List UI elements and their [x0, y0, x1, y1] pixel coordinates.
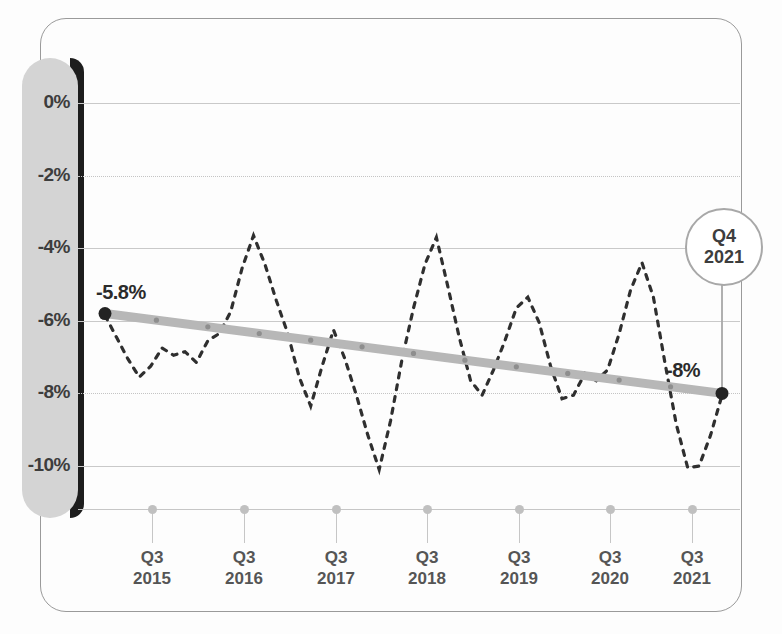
- trend-tick-marker: [411, 351, 416, 356]
- callout-badge[interactable]: Q4 2021: [685, 208, 763, 286]
- end-point-marker[interactable]: [716, 387, 729, 400]
- series-layer: [0, 0, 782, 634]
- trend-tick-marker: [205, 324, 210, 329]
- trend-tick-marker: [359, 344, 364, 349]
- trend-tick-marker: [668, 384, 673, 389]
- trend-tick-marker: [462, 358, 467, 363]
- trend-tick-marker: [154, 318, 159, 323]
- trend-tick-marker: [257, 331, 262, 336]
- trend-tick-marker: [514, 364, 519, 369]
- callout-line-1: Q4: [712, 226, 736, 247]
- start-point-marker[interactable]: [99, 307, 112, 320]
- callout-line-2: 2021: [704, 247, 744, 268]
- trend-tick-marker: [617, 377, 622, 382]
- trend-tick-marker: [308, 338, 313, 343]
- plot-area: 0%-2%-4%-6%-8%-10% Q32015Q32016Q32017Q32…: [0, 0, 782, 634]
- end-point-label: -8%: [666, 359, 700, 382]
- start-point-label: -5.8%: [96, 281, 146, 304]
- trend-tick-marker: [565, 371, 570, 376]
- chart-root: 0%-2%-4%-6%-8%-10% Q32015Q32016Q32017Q32…: [0, 0, 782, 634]
